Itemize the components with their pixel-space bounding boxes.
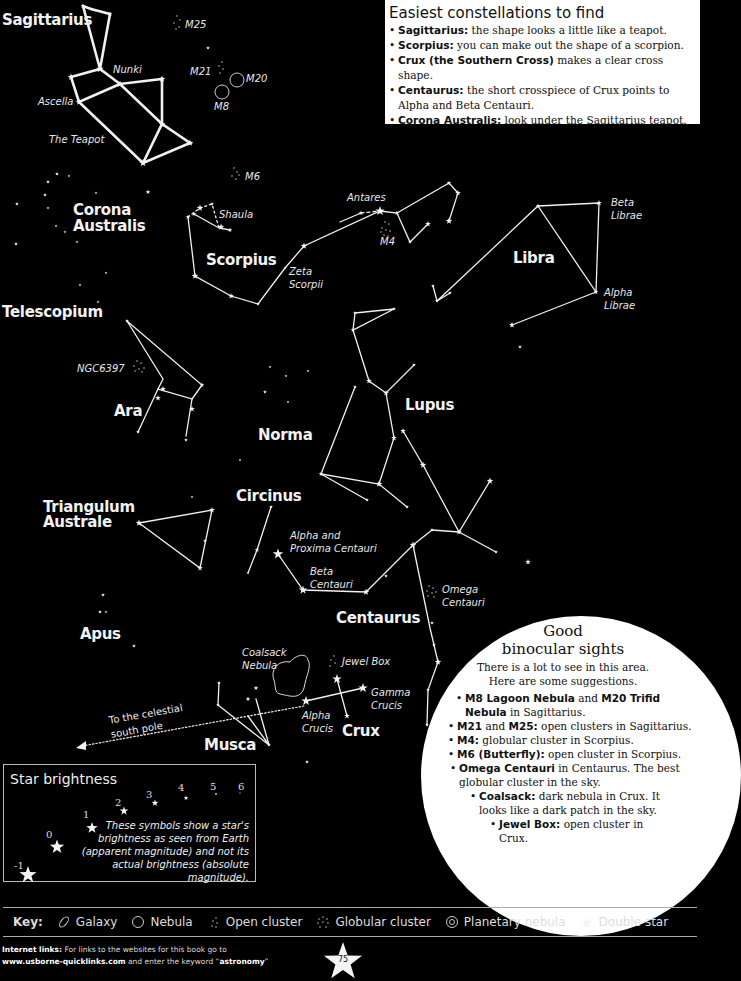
mag-0: 0 xyxy=(46,829,52,840)
quicklinks-url[interactable]: www.usborne-quicklinks.com xyxy=(2,957,126,966)
label-alpha-librae-2: Librae xyxy=(604,300,635,312)
label-ngc6397: NGC6397 xyxy=(77,363,125,375)
label-gamma-crucis-1: Gamma xyxy=(371,687,411,699)
key-legend: Key: Galaxy Nebula Open cluster Globular… xyxy=(3,907,697,937)
label-crux: Crux xyxy=(342,723,380,739)
label-alpha-crucis-1: Alpha xyxy=(302,710,330,722)
label-zeta-scorpii-1: Zeta xyxy=(289,266,312,278)
label-lupus: Lupus xyxy=(405,397,454,413)
label-antares: Antares xyxy=(347,192,386,204)
binocular-item: Omega Centauri in Centaurus. The best gl… xyxy=(450,761,699,789)
galaxy-icon xyxy=(57,915,71,929)
page-number-star: 75 xyxy=(322,940,364,980)
binocular-sights-content: Good binocular sights There is a lot to … xyxy=(426,622,700,845)
label-gamma-crucis-2: Crucis xyxy=(371,700,402,712)
key-title: Key: xyxy=(13,915,43,929)
arrow-icon xyxy=(76,741,86,750)
double-star-icon xyxy=(580,915,594,929)
m8-nebula-icon xyxy=(215,85,229,99)
label-jewel-box: Jewel Box xyxy=(342,656,390,668)
info-item: Scorpius: you can make out the shape of … xyxy=(389,38,692,53)
label-telescopium: Telescopium xyxy=(2,304,103,320)
key-item-open-cluster: Open cluster xyxy=(207,915,303,929)
label-scorpius: Scorpius xyxy=(206,252,276,268)
binocular-item: Coalsack: dark nebula in Crux. It looks … xyxy=(470,789,669,817)
binocular-title-2: binocular sights xyxy=(426,640,700,658)
label-coalsack-1: Coalsack xyxy=(242,647,287,659)
label-corona-australis-2: Australis xyxy=(73,218,145,234)
label-ascella: Ascella xyxy=(38,96,73,108)
key-item-planetary-nebula: Planetary nebula xyxy=(445,915,566,929)
label-m21: M21 xyxy=(190,66,211,78)
binocular-title-1: Good xyxy=(426,622,700,640)
info-item: Centaurus: the short crosspiece of Crux … xyxy=(389,83,692,113)
label-libra: Libra xyxy=(513,250,554,266)
label-beta-centauri-2: Centauri xyxy=(310,579,353,591)
label-circinus: Circinus xyxy=(236,488,301,504)
key-item-double-star: Double star xyxy=(580,915,669,929)
binocular-item: Jewel Box: open cluster in Crux. xyxy=(490,817,644,845)
coalsack-outline xyxy=(273,655,309,696)
binocular-intro: There is a lot to see in this area. Here… xyxy=(426,660,700,688)
page-number: 75 xyxy=(322,955,364,964)
label-ara: Ara xyxy=(114,403,142,419)
label-nunki: Nunki xyxy=(113,64,142,76)
label-m20: M20 xyxy=(246,73,267,85)
open-cluster-icon xyxy=(207,915,221,929)
label-triangulum-australe-2: Australe xyxy=(43,514,112,530)
label-beta-librae-2: Librae xyxy=(611,210,642,222)
planetary-nebula-icon xyxy=(445,915,459,929)
label-sagittarius: Sagittarius xyxy=(2,12,92,28)
internet-links-footer: Internet links: For links to the website… xyxy=(2,944,269,968)
binocular-item: M4: globular cluster in Scorpius. xyxy=(448,733,700,747)
label-beta-librae-1: Beta xyxy=(611,197,634,209)
globular-cluster-icon xyxy=(316,915,330,929)
label-centaurus: Centaurus xyxy=(336,610,420,626)
key-item-galaxy: Galaxy xyxy=(57,915,118,929)
label-alpha-librae-1: Alpha xyxy=(604,287,632,299)
mag-4: 4 xyxy=(178,782,184,793)
label-m6: M6 xyxy=(245,171,260,183)
label-corona-australis-1: Corona xyxy=(73,202,131,218)
info-item: Crux (the Southern Cross) makes a clear … xyxy=(389,53,692,83)
info-item: Sagittarius: the shape looks a little li… xyxy=(389,23,692,38)
info-item: Corona Australis: look under the Sagitta… xyxy=(389,113,692,128)
label-alpha-proxima-1: Alpha and xyxy=(290,530,340,542)
label-m8: M8 xyxy=(214,101,229,113)
binocular-item: M21 and M25: open clusters in Sagittariu… xyxy=(448,719,700,733)
label-norma: Norma xyxy=(258,427,313,443)
easiest-constellations-box: Easiest constellations to find Sagittari… xyxy=(385,0,700,124)
mag-3: 3 xyxy=(146,789,152,800)
brightness-description: These symbols show a star's brightness a… xyxy=(79,819,249,884)
mag-2: 2 xyxy=(115,797,121,808)
label-beta-centauri-1: Beta xyxy=(310,566,333,578)
binocular-item: M6 (Butterfly): open cluster in Scorpius… xyxy=(448,747,700,761)
label-musca: Musca xyxy=(204,737,256,753)
mag-6: 6 xyxy=(238,781,244,792)
label-alpha-crucis-2: Crucis xyxy=(302,723,333,735)
label-m25: M25 xyxy=(185,19,206,31)
nebula-icon xyxy=(131,915,145,929)
mag-5: 5 xyxy=(210,781,216,792)
star-brightness-legend: Star brightness -1 0 1 2 3 4 5 6 These s… xyxy=(3,764,256,882)
binocular-item: M8 Lagoon Nebula and M20 Trifid Nebula i… xyxy=(456,691,700,719)
label-teapot: The Teapot xyxy=(49,134,104,146)
label-shaula: Shaula xyxy=(219,209,253,221)
label-coalsack-2: Nebula xyxy=(242,660,277,672)
m20-nebula-icon xyxy=(230,73,244,87)
key-item-nebula: Nebula xyxy=(131,915,192,929)
label-zeta-scorpii-2: Scorpii xyxy=(289,279,323,291)
key-item-globular-cluster: Globular cluster xyxy=(316,915,430,929)
label-omega-centauri-1: Omega xyxy=(442,584,478,596)
info-box-title: Easiest constellations to find xyxy=(389,4,692,22)
label-m4: M4 xyxy=(380,236,395,248)
label-apus: Apus xyxy=(80,626,121,642)
mag-neg1: -1 xyxy=(14,860,24,871)
label-alpha-proxima-2: Proxima Centauri xyxy=(290,543,377,555)
label-omega-centauri-2: Centauri xyxy=(442,597,485,609)
